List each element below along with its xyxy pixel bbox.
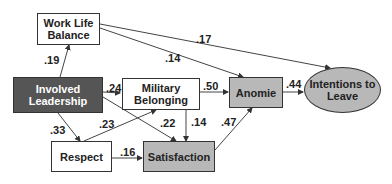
node-anomie: Anomie [229, 77, 283, 108]
node-satisfaction: Satisfaction [143, 141, 215, 172]
coef-worklife-anomie: .14 [165, 52, 180, 64]
node-work-life-balance: Work Life Balance [37, 13, 100, 45]
node-military-belonging: Military Belonging [122, 78, 200, 110]
coef-belonging-satisfaction: .14 [191, 116, 206, 128]
coef-leadership-satisfaction: .22 [160, 117, 175, 129]
coef-respect-belonging: .23 [99, 118, 114, 130]
coef-leadership-worklife: .19 [44, 54, 59, 66]
coef-belonging-anomie: .50 [203, 80, 218, 92]
coef-anomie-intentions: .44 [286, 78, 301, 90]
node-intentions-to-leave: Intentions to Leave [304, 67, 381, 113]
node-respect: Respect [51, 141, 112, 172]
coef-satisfaction-anomie: .47 [221, 116, 236, 128]
node-involved-leadership: Involved Leadership [13, 77, 103, 113]
coef-leadership-respect: .33 [50, 124, 65, 136]
coef-worklife-intentions: .17 [196, 33, 211, 45]
coef-respect-satisfaction: .16 [120, 146, 135, 158]
coef-leadership-belonging: .24 [106, 82, 121, 94]
